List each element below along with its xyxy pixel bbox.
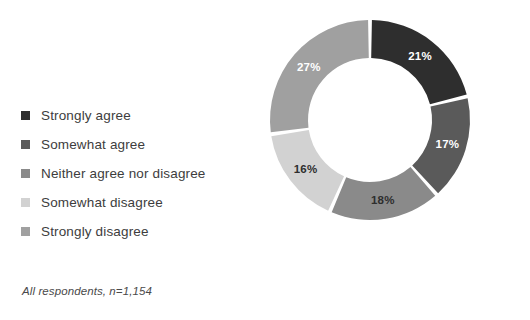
- legend-item-label: Somewhat agree: [41, 137, 145, 152]
- donut-slice-group: [270, 20, 470, 220]
- legend-item-somewhat-disagree[interactable]: Somewhat disagree: [21, 188, 253, 217]
- donut-chart: 21%17%18%16%27%: [262, 12, 478, 228]
- legend-item-somewhat-agree[interactable]: Somewhat agree: [21, 130, 253, 159]
- legend-swatch-icon: [21, 140, 30, 149]
- donut-slice-label: 18%: [371, 194, 395, 206]
- donut-slice-label: 17%: [436, 138, 460, 150]
- legend-item-label: Strongly disagree: [41, 224, 149, 239]
- donut-slice[interactable]: [270, 20, 369, 132]
- legend-swatch-icon: [21, 169, 30, 178]
- legend-item-label: Somewhat disagree: [41, 195, 163, 210]
- legend-item-label: Strongly agree: [41, 108, 131, 123]
- legend-item-strongly-agree[interactable]: Strongly agree: [21, 101, 253, 130]
- legend-item-neither-agree-nor-disagree[interactable]: Neither agree nor disagree: [21, 159, 253, 188]
- chart-footnote: All respondents, n=1,154: [22, 285, 152, 297]
- cropped-title-remnant: [28, 0, 498, 1]
- donut-slice-label: 21%: [408, 50, 432, 62]
- chart-canvas: Strongly agree Somewhat agree Neither ag…: [0, 0, 530, 320]
- legend-swatch-icon: [21, 198, 30, 207]
- chart-legend: Strongly agree Somewhat agree Neither ag…: [21, 101, 253, 246]
- donut-svg: 21%17%18%16%27%: [262, 12, 478, 228]
- donut-slice-label: 27%: [297, 61, 321, 73]
- legend-swatch-icon: [21, 227, 30, 236]
- legend-item-label: Neither agree nor disagree: [41, 166, 206, 181]
- legend-item-strongly-disagree[interactable]: Strongly disagree: [21, 217, 253, 246]
- legend-swatch-icon: [21, 111, 30, 120]
- donut-slice-label: 16%: [294, 163, 318, 175]
